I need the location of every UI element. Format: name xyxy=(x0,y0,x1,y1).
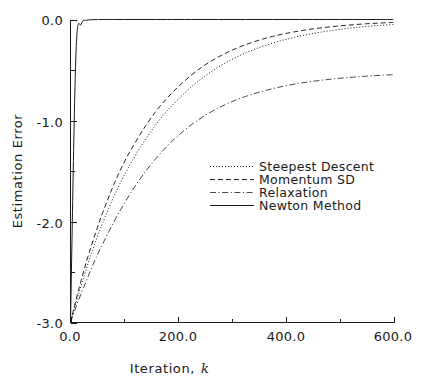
legend-label-newton-method: Newton Method xyxy=(259,198,362,213)
y-tick-label-2: -2.0 xyxy=(36,216,63,231)
estimation-error-line-chart: 0.0 -1.0 -2.0 -3.0 0.0 200.0 400.0 600.0… xyxy=(0,0,425,389)
y-tick-label-1: -1.0 xyxy=(36,115,63,130)
y-tick-label-0: 0.0 xyxy=(41,13,63,28)
x-axis-title-main: Iteration, xyxy=(130,361,195,376)
x-axis-title-variable: k xyxy=(201,361,209,376)
x-tick-label-2: 400.0 xyxy=(267,329,306,344)
x-tick-label-0: 0.0 xyxy=(59,329,81,344)
chart-figure: 0.0 -1.0 -2.0 -3.0 0.0 200.0 400.0 600.0… xyxy=(0,0,425,389)
x-tick-label-1: 200.0 xyxy=(159,329,198,344)
y-axis-title: Estimation Error xyxy=(10,114,25,229)
x-tick-label-3: 600.0 xyxy=(374,329,413,344)
